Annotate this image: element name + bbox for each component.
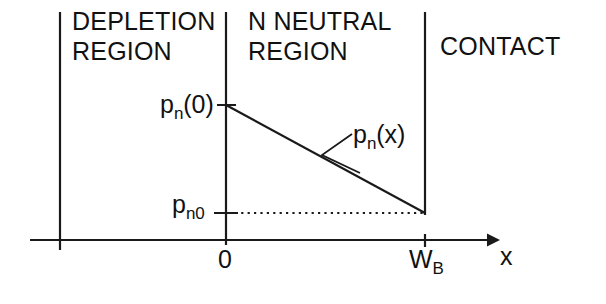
x-axis-arrowhead (487, 234, 500, 247)
pn-x-argument: (x) (376, 120, 405, 148)
x-axis-label: x (500, 244, 513, 269)
depletion-region-line-1: DEPLETION (72, 6, 216, 36)
pn-of-x-profile-label: pn(x) (353, 122, 405, 152)
pn0-base: p (172, 190, 186, 218)
wb-tick-label: WB (409, 247, 444, 277)
contact-region-label: CONTACT (440, 31, 560, 61)
wb-subscript: B (433, 259, 444, 278)
depletion-region-line-2: REGION (72, 36, 216, 66)
semiconductor-carrier-profile-diagram: DEPLETION REGION N NEUTRAL REGION CONTAC… (0, 0, 606, 304)
pn-zero-boundary-label: pn(0) (160, 92, 214, 122)
neutral-region-label: N NEUTRAL REGION (248, 6, 392, 66)
pn0-subscript: n0 (186, 204, 205, 223)
neutral-region-line-1: N NEUTRAL (248, 6, 392, 36)
pn-x-base: p (353, 120, 367, 148)
pn-x-subscript: n (367, 134, 376, 153)
pn-zero-subscript: n (174, 104, 183, 123)
origin-tick-label: 0 (218, 247, 232, 272)
neutral-region-line-2: REGION (248, 36, 392, 66)
depletion-region-label: DEPLETION REGION (72, 6, 216, 66)
pn0-equilibrium-label: pn0 (172, 192, 204, 222)
pn-zero-argument: (0) (183, 90, 214, 118)
wb-base: W (409, 245, 433, 273)
pn-zero-base: p (160, 90, 174, 118)
